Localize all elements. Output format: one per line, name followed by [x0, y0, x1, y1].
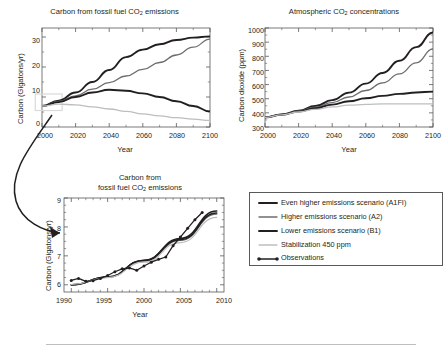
legend-label-stabilization: Stabilization 450 ppm [281, 240, 351, 249]
panel-concentrations: Atmospheric CO2 concentrations Carbon di… [224, 0, 448, 170]
legend-label-b1: Lower emissions scenario (B1) [281, 226, 381, 235]
figure-root: Carbon from fossil fuel CO2 emissions Ca… [0, 0, 448, 353]
legend-label-observations: Observations [281, 253, 324, 262]
concentrations-plot [224, 0, 448, 170]
callout-arrow [0, 95, 120, 235]
footer-divider [46, 344, 416, 345]
legend-label-a1fi: Even higher emissions scenario (A1FI) [281, 198, 406, 207]
legend-label-a2: Higher emissions scenario (A2) [281, 212, 382, 221]
legend-box: Even higher emissions scenario (A1FI) Hi… [249, 192, 443, 266]
